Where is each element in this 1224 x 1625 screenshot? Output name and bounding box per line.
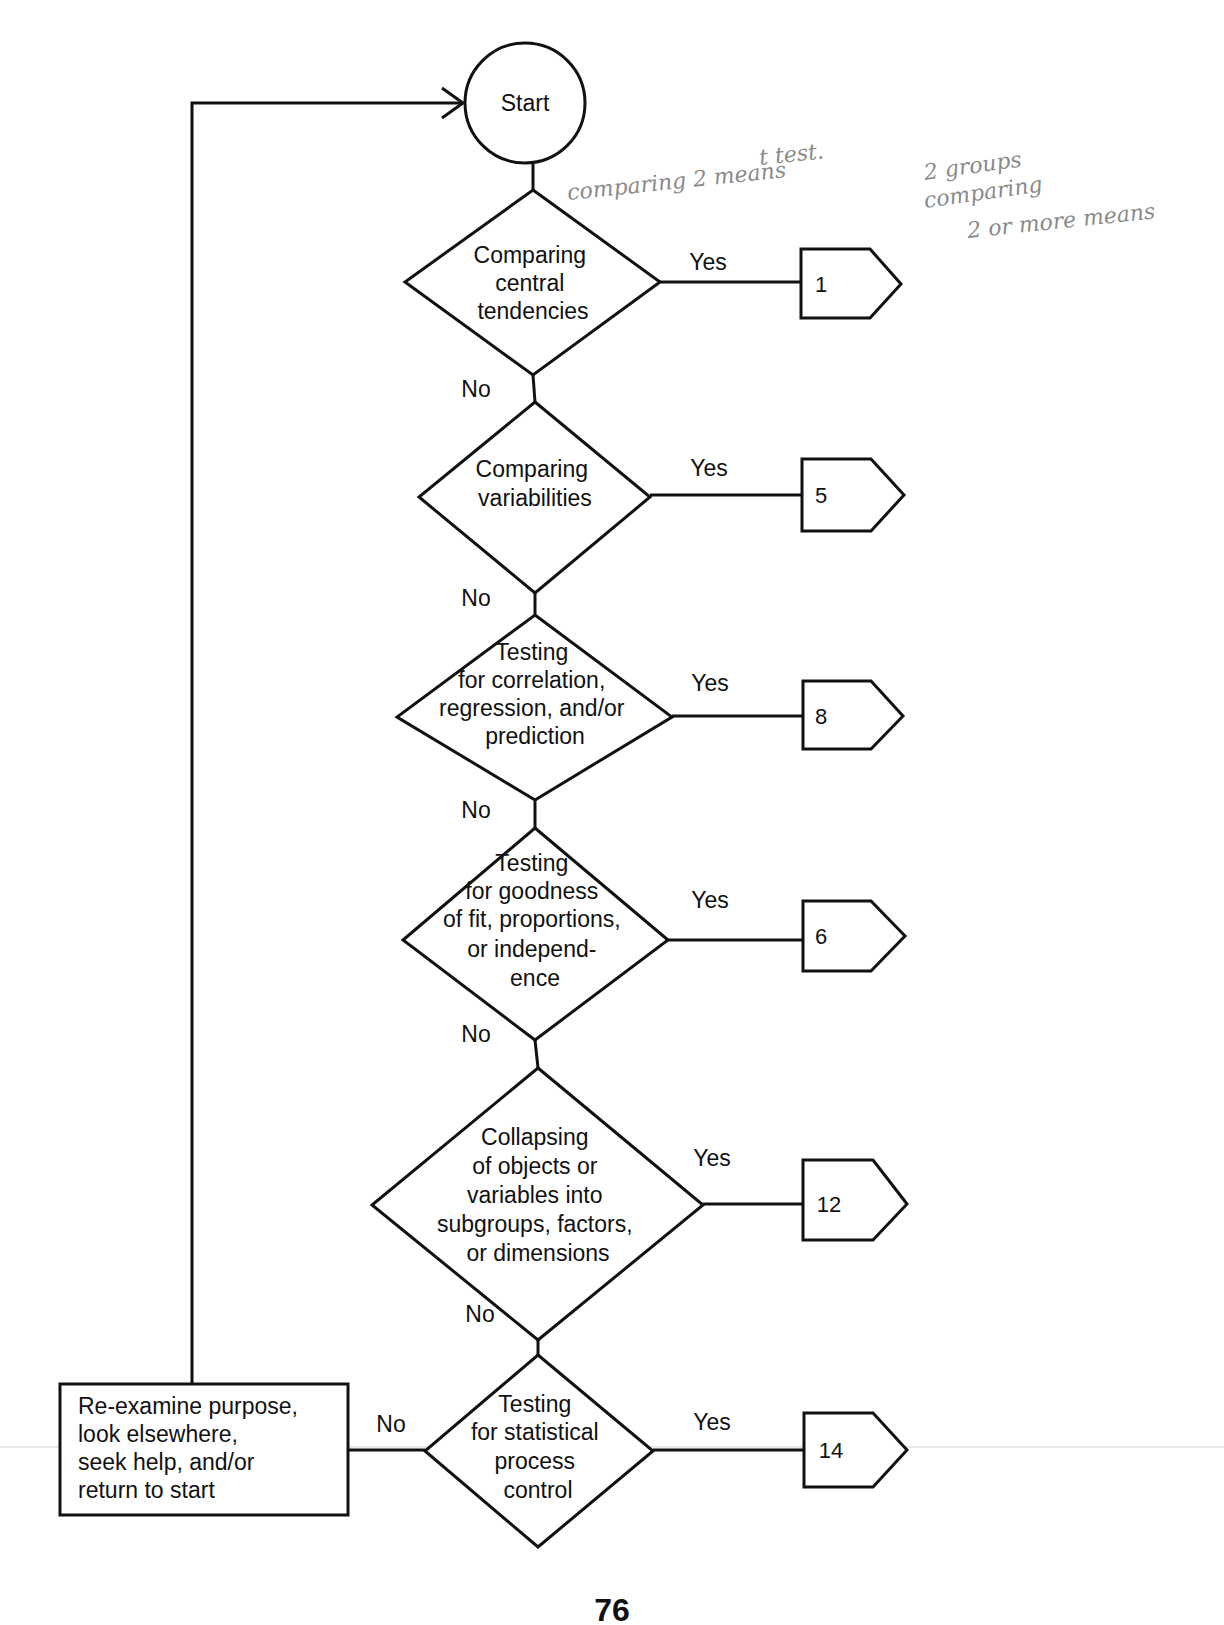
no-label-5: No — [465, 1301, 494, 1327]
page-number: 76 — [0, 1592, 1224, 1625]
connector-5-label: 5 — [815, 483, 827, 508]
start-label: Start — [501, 90, 550, 116]
yes-label-2: Yes — [690, 455, 728, 481]
handwritten-notes: comparing 2 means t test. 2 groups compa… — [566, 138, 1156, 243]
yes-label-6: Yes — [693, 1409, 731, 1435]
handwritten-note-2: t test. — [758, 138, 825, 170]
connector-14-label: 14 — [819, 1438, 843, 1463]
decision-correlation-regression: Testing for correlation, regression, and… — [397, 615, 803, 823]
connector-8-label: 8 — [815, 704, 827, 729]
no-label-1: No — [461, 376, 490, 402]
decision-statistical-process-control: Testing for statistical process control … — [348, 1355, 804, 1547]
yes-label-1: Yes — [689, 249, 727, 275]
handwritten-note-5: 2 or more means — [965, 198, 1156, 243]
start-node: Start — [465, 43, 585, 163]
connector-5: 5 — [802, 459, 904, 531]
no-label-6: No — [376, 1411, 405, 1437]
connector-1-label: 1 — [815, 272, 827, 297]
yes-label-4: Yes — [691, 887, 729, 913]
connector-1: 1 — [801, 249, 901, 318]
decision-central-tendencies: Comparing central tendencies Yes No — [405, 190, 801, 402]
no-label-4: No — [461, 1021, 490, 1047]
handwritten-note-1: comparing 2 means — [566, 157, 787, 205]
decision-collapsing: Collapsing of objects or variables into … — [372, 1068, 803, 1340]
yes-label-3: Yes — [691, 670, 729, 696]
yes-label-5: Yes — [693, 1145, 731, 1171]
fallback-box: Re-examine purpose, look elsewhere, seek… — [60, 1384, 348, 1515]
connector-6: 6 — [803, 901, 905, 971]
decision-goodness-of-fit: Testing for goodness of fit, proportions… — [403, 828, 803, 1047]
connector-12-label: 12 — [817, 1192, 841, 1217]
connector-12: 12 — [803, 1160, 907, 1240]
decision-variabilities: Comparing variabilities Yes No — [419, 402, 802, 611]
no-label-3: No — [461, 797, 490, 823]
connector-14: 14 — [804, 1413, 907, 1487]
connector-8: 8 — [803, 681, 903, 749]
connector-6-label: 6 — [815, 924, 827, 949]
no-label-2: No — [461, 585, 490, 611]
